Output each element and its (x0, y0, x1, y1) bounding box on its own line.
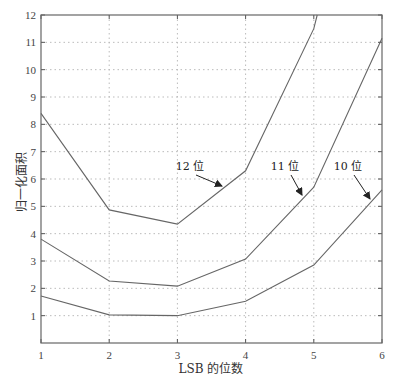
y-tick-label: 6 (31, 173, 37, 185)
y-tick-label: 8 (31, 118, 37, 130)
y-tick-label: 10 (25, 64, 37, 76)
annotation-label: 12 位 (176, 159, 205, 173)
y-tick-label: 12 (25, 9, 36, 21)
series-line (41, 38, 382, 286)
x-axis-label: LSB 的位数 (0, 359, 394, 376)
y-tick-label: 2 (31, 282, 37, 294)
y-tick-label: 3 (31, 255, 37, 267)
series-line (41, 190, 382, 316)
annotation-arrow (196, 175, 222, 186)
annotation-label: 11 位 (271, 159, 300, 173)
line-chart: 12345612345678910111212 位11 位10 位 (0, 0, 394, 381)
series-line (41, 15, 317, 224)
y-tick-label: 9 (31, 91, 37, 103)
y-tick-label: 7 (31, 146, 37, 158)
y-axis-label: 归一化面积 (12, 132, 29, 232)
annotation-label: 10 位 (334, 159, 363, 173)
y-tick-label: 1 (31, 310, 37, 322)
y-tick-label: 5 (31, 200, 37, 212)
y-tick-label: 4 (31, 228, 37, 240)
annotation-arrow (291, 175, 302, 195)
y-tick-label: 11 (25, 36, 36, 48)
plot-frame (41, 15, 382, 343)
